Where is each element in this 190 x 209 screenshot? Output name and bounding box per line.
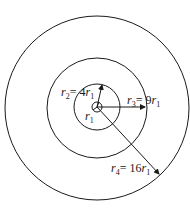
label-r4: r4= 16r1 <box>111 161 150 177</box>
label-r2: r2= 4r1 <box>61 85 94 101</box>
label-r1: r1 <box>85 109 94 125</box>
circle-r4 <box>5 16 189 200</box>
label-r3: r3= 9r1 <box>127 93 160 109</box>
radius-diagram: r2= 4r1 r1 r3= 9r1 r4= 16r1 <box>0 0 190 209</box>
